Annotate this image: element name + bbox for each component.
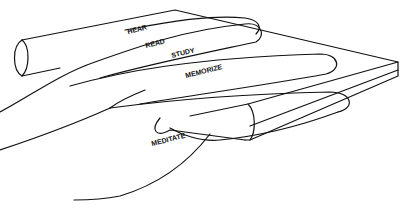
finger-label-study: STUDY xyxy=(171,46,196,59)
hand-book-diagram: HEAR READ STUDY MEMORIZE MEDITATE xyxy=(0,0,411,208)
finger-label-meditate: MEDITATE xyxy=(151,132,187,147)
finger-label-hear: HEAR xyxy=(127,23,148,35)
finger-label-read: READ xyxy=(145,37,166,49)
hand-book-illustration: HEAR READ STUDY MEMORIZE MEDITATE xyxy=(0,0,411,208)
finger-label-memorize: MEMORIZE xyxy=(185,63,224,79)
